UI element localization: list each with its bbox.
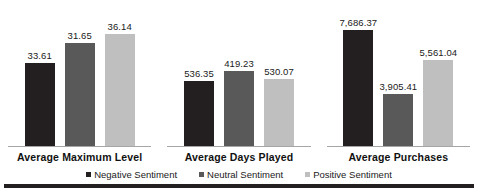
bar-slot: 31.65: [65, 0, 95, 147]
category-label-2: Average Purchases: [319, 149, 478, 165]
bar-slot: 33.61: [25, 0, 55, 147]
legend-label: Neutral Sentiment: [207, 169, 283, 180]
bar-group-average-purchases: 7,686.37 3,905.41 5,561.04: [319, 0, 478, 147]
bar-group-average-maximum-level: 33.61 31.65 36.14: [0, 0, 159, 147]
bar-value-label: 5,561.04: [419, 47, 457, 58]
bar-negative-sentiment[interactable]: [184, 81, 214, 147]
legend-item-positive-sentiment[interactable]: Positive Sentiment: [305, 169, 392, 180]
bar-group-average-days-played: 536.35 419.23 530.07: [159, 0, 318, 147]
bottom-divider-rule: [4, 184, 474, 188]
bar-value-label: 530.07: [264, 66, 294, 77]
category-axis-labels: Average Maximum Level Average Days Playe…: [0, 149, 478, 165]
bar-slot: 3,905.41: [383, 0, 413, 147]
bar-slot: 530.07: [264, 0, 294, 147]
bar-slot: 5,561.04: [423, 0, 453, 147]
legend-label: Negative Sentiment: [94, 169, 177, 180]
bar-neutral-sentiment[interactable]: [383, 94, 413, 147]
bar-value-label: 7,686.37: [339, 17, 377, 28]
legend-swatch-icon: [86, 172, 91, 177]
legend-item-negative-sentiment[interactable]: Negative Sentiment: [86, 169, 177, 180]
legend-swatch-icon: [199, 172, 204, 177]
bar-positive-sentiment[interactable]: [423, 60, 453, 147]
bar-value-label: 36.14: [108, 21, 132, 32]
bar-value-label: 33.61: [28, 50, 52, 61]
bar-negative-sentiment[interactable]: [343, 30, 373, 147]
legend-label: Positive Sentiment: [313, 169, 392, 180]
legend-item-neutral-sentiment[interactable]: Neutral Sentiment: [199, 169, 283, 180]
legend-swatch-icon: [305, 172, 310, 177]
bar-positive-sentiment[interactable]: [264, 79, 294, 147]
bar-neutral-sentiment[interactable]: [224, 71, 254, 147]
bar-slot: 7,686.37: [343, 0, 373, 147]
bar-slot: 36.14: [105, 0, 135, 147]
bar-negative-sentiment[interactable]: [25, 63, 55, 147]
bar-value-label: 3,905.41: [379, 81, 417, 92]
plot-area: 33.61 31.65 36.14 536.35 419.23: [0, 0, 478, 147]
bar-value-label: 536.35: [184, 68, 214, 79]
bar-chart: 33.61 31.65 36.14 536.35 419.23: [0, 0, 478, 191]
bar-slot: 419.23: [224, 0, 254, 147]
bar-value-label: 419.23: [224, 58, 254, 69]
bar-slot: 536.35: [184, 0, 214, 147]
bar-positive-sentiment[interactable]: [105, 34, 135, 147]
category-label-1: Average Days Played: [159, 149, 318, 165]
bar-neutral-sentiment[interactable]: [65, 43, 95, 147]
bar-value-label: 31.65: [68, 30, 92, 41]
chart-legend: Negative Sentiment Neutral Sentiment Pos…: [0, 167, 478, 181]
category-label-0: Average Maximum Level: [0, 149, 159, 165]
